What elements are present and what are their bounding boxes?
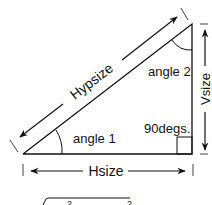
right-angle-label: 90degs. [144, 121, 190, 136]
angle1-label: angle 1 [73, 131, 116, 146]
hyp-arrow-upper [122, 17, 177, 60]
vsize-label: Vsize [198, 73, 212, 105]
right-angle-marker [177, 137, 192, 154]
triangle-diagram: Hypsize Vsize Hsize angle 1 angle 2 90de… [0, 0, 212, 205]
hyp-tick-top [181, 8, 188, 20]
hyp-arrow-lower [20, 104, 63, 137]
hypsize-label: Hypsize [67, 60, 116, 103]
hsize-label: Hsize [88, 163, 123, 179]
hyp-tick-bottom [10, 140, 18, 152]
formula-partial: 2 2 [43, 198, 132, 205]
formula-exponent-left: 2 [67, 199, 72, 205]
formula-exponent-right: 2 [127, 199, 132, 205]
angle2-label: angle 2 [148, 64, 191, 79]
angle2-arc [172, 40, 192, 50]
angle1-arc [56, 130, 62, 154]
